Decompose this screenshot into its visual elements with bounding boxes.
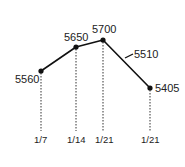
value-label-1: 5560 xyxy=(15,73,39,85)
data-point-2 xyxy=(73,44,78,49)
value-label-2: 5650 xyxy=(64,31,88,43)
value-label-3: 5700 xyxy=(92,23,116,35)
x-tick-1: 1/7 xyxy=(34,134,47,145)
x-tick-3: 1/21 xyxy=(95,134,114,145)
annotation-leader-line xyxy=(125,54,133,58)
data-markers xyxy=(38,37,152,90)
data-point-3 xyxy=(100,37,105,42)
annotation-label: 5510 xyxy=(134,48,158,60)
line-chart: 5560 5650 5700 5405 5510 1/7 1/14 1/21 1… xyxy=(0,0,185,167)
x-tick-2: 1/14 xyxy=(67,134,86,145)
data-point-4 xyxy=(147,85,152,90)
x-tick-4: 1/21 xyxy=(141,134,160,145)
value-label-4: 5405 xyxy=(155,82,179,94)
